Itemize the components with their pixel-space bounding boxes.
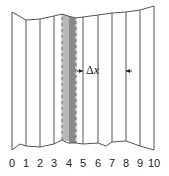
axis-label-6: 6 <box>95 156 101 170</box>
slice-diagram <box>0 0 169 176</box>
delta-x-right-arrow-head <box>126 69 130 73</box>
slice-lines <box>12 6 154 150</box>
axis-label-4: 4 <box>66 156 72 170</box>
axis-label-1: 1 <box>23 156 29 170</box>
axis-label-10: 10 <box>148 156 160 170</box>
shaded-slice-dark <box>69 16 76 143</box>
axis-label-0: 0 <box>9 156 15 170</box>
delta-symbol: Δ <box>86 63 94 77</box>
axis-label-9: 9 <box>137 156 143 170</box>
delta-x-left-arrow-head <box>79 69 83 73</box>
axis-label-7: 7 <box>109 156 115 170</box>
shaded-slice <box>62 14 76 143</box>
axis-label-8: 8 <box>123 156 129 170</box>
axis-label-3: 3 <box>51 156 57 170</box>
x-variable: x <box>94 63 99 77</box>
axis-label-5: 5 <box>80 156 86 170</box>
delta-x-label: Δx <box>86 63 99 77</box>
axis-label-2: 2 <box>37 156 43 170</box>
